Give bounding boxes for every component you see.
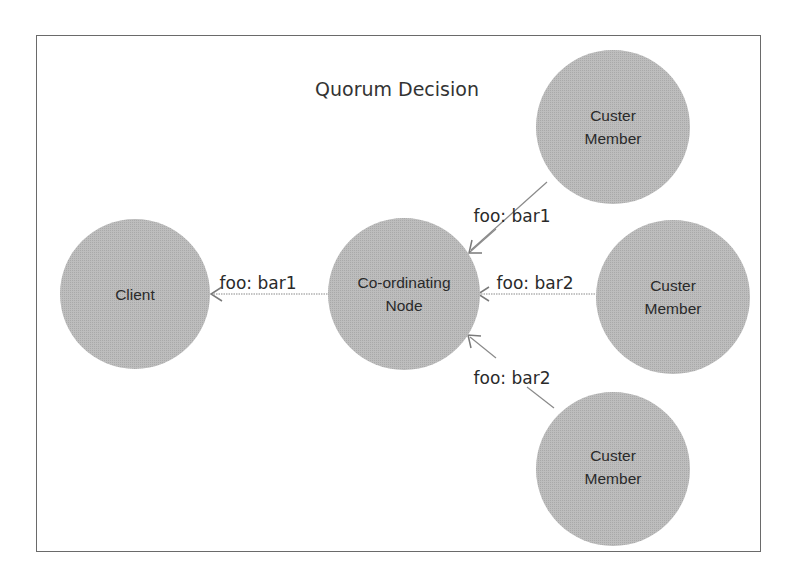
edge-member1-to-coordinator: foo: bar1 bbox=[469, 182, 550, 253]
arrowhead-icon bbox=[468, 335, 481, 348]
edge-label: foo: bar1 bbox=[220, 273, 297, 293]
node-cluster-member-middle: Custer Member bbox=[596, 220, 750, 374]
node-coordinating-node: Co-ordinating Node bbox=[328, 218, 480, 370]
node-label: Member bbox=[585, 130, 642, 147]
edge-label: foo: bar2 bbox=[474, 368, 551, 388]
node-label: Member bbox=[585, 470, 642, 487]
diagram-title: Quorum Decision bbox=[315, 78, 479, 100]
node-cluster-member-bottom: Custer Member bbox=[536, 392, 690, 546]
node-label: Client bbox=[115, 286, 155, 303]
node-label: Member bbox=[645, 300, 702, 317]
node-cluster-member-top: Custer Member bbox=[536, 50, 690, 204]
edge-label: foo: bar2 bbox=[497, 273, 574, 293]
node-label: Custer bbox=[590, 447, 636, 464]
edge-member3-to-coordinator: foo: bar2 bbox=[468, 335, 554, 408]
node-label: Node bbox=[385, 297, 422, 314]
node-label: Co-ordinating bbox=[357, 274, 450, 291]
edge-coordinator-to-client: foo: bar1 bbox=[211, 273, 330, 301]
node-label: Custer bbox=[650, 277, 696, 294]
node-client: Client bbox=[60, 219, 210, 369]
edge-label: foo: bar1 bbox=[474, 206, 551, 226]
node-label: Custer bbox=[590, 107, 636, 124]
edge-member2-to-coordinator: foo: bar2 bbox=[478, 273, 595, 301]
quorum-diagram: Quorum Decision foo: bar1 foo: bar1 foo:… bbox=[0, 0, 793, 577]
